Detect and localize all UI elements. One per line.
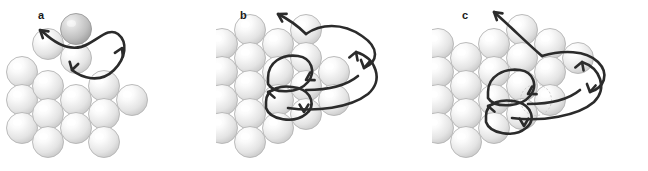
panel-c: c <box>432 0 648 171</box>
panel-b: b <box>216 0 432 171</box>
panel-c-trajectory-arrows <box>432 0 648 171</box>
panel-a-trajectory-arrows <box>0 0 216 171</box>
panel-label-b: b <box>240 10 247 21</box>
mid-return-arc <box>528 90 580 104</box>
arrowhead-down <box>70 62 79 70</box>
panel-a: a <box>0 0 216 171</box>
arrowhead-lower-arc-in <box>349 52 357 60</box>
arrowhead-loop-left <box>488 103 496 112</box>
arrowhead-right-up <box>115 48 123 57</box>
panel-label-c: c <box>462 10 468 21</box>
long-exchange-arc-upper <box>306 26 375 68</box>
panel-label-a: a <box>38 10 44 21</box>
long-exchange-arc-lower <box>288 52 377 109</box>
arrowhead-loop-left <box>268 89 276 98</box>
surface-diffusion-figure: abc <box>0 0 648 171</box>
ascent-arrow-up-left <box>494 12 542 56</box>
arrowhead-lower-arc-in <box>575 62 583 70</box>
detach-arrow-up-left <box>278 14 306 34</box>
exchange-loop-path <box>43 32 124 78</box>
mid-return-arc <box>306 76 358 90</box>
panel-b-trajectory-arrows <box>216 0 432 171</box>
